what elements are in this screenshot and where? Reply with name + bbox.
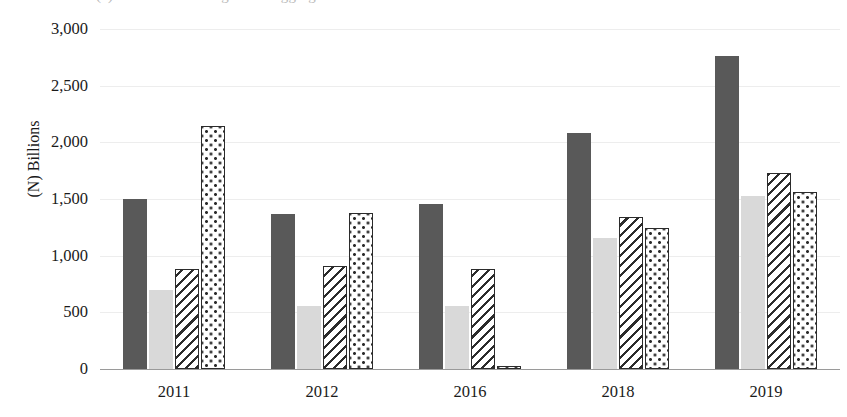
bar-series-3-2019[interactable] [767, 173, 792, 369]
bar-group [419, 29, 522, 369]
bar-series-1-2011[interactable] [123, 199, 148, 369]
bar-series-1-2016[interactable] [419, 204, 444, 369]
bar-group [715, 29, 818, 369]
bar-series-1-2012[interactable] [271, 214, 296, 369]
bar-series-3-2018[interactable] [619, 217, 644, 369]
y-tick-label: 2,000 [0, 134, 88, 151]
y-axis-title: (N) Billions [25, 79, 43, 239]
bar-series-3-2011[interactable] [175, 269, 200, 369]
bar-group [567, 29, 670, 369]
bar-series-2-2019[interactable] [741, 196, 766, 369]
bar-group-bars [271, 29, 374, 369]
x-tick-label-2012: 2012 [306, 382, 339, 402]
axis-baseline [100, 369, 840, 370]
bar-group [271, 29, 374, 369]
bar-series-2-2012[interactable] [297, 306, 322, 369]
y-tick-label: 1,500 [0, 191, 88, 208]
bar-series-2-2018[interactable] [593, 238, 618, 369]
bar-group-bars [715, 29, 818, 369]
bar-series-4-2016[interactable] [497, 366, 522, 369]
plot-area [100, 29, 840, 369]
bar-series-3-2012[interactable] [323, 266, 348, 369]
y-tick-label: 2,500 [0, 77, 88, 94]
y-tick-label: 500 [0, 304, 88, 321]
bar-series-2-2011[interactable] [149, 290, 174, 369]
bar-series-4-2011[interactable] [201, 126, 226, 369]
bar-group [123, 29, 226, 369]
x-tick-label-2016: 2016 [454, 382, 487, 402]
bar-series-4-2012[interactable] [349, 213, 374, 369]
bar-group-bars [567, 29, 670, 369]
y-tick-label: 1,000 [0, 247, 88, 264]
x-tick-label-2019: 2019 [750, 382, 783, 402]
bar-series-1-2018[interactable] [567, 133, 592, 369]
bar-series-4-2019[interactable] [793, 192, 818, 369]
bar-series-2-2016[interactable] [445, 306, 470, 369]
bar-group-bars [123, 29, 226, 369]
bar-series-3-2016[interactable] [471, 269, 496, 369]
bar-chart: (N) Billions 05001,0001,5002,0002,5003,0… [0, 0, 847, 417]
y-tick-label: 0 [0, 361, 88, 378]
x-tick-label-2018: 2018 [602, 382, 635, 402]
bar-series-4-2018[interactable] [645, 228, 670, 369]
bar-group-bars [419, 29, 522, 369]
y-tick-label: 3,000 [0, 21, 88, 38]
x-tick-label-2011: 2011 [158, 382, 190, 402]
bar-series-1-2019[interactable] [715, 56, 740, 369]
